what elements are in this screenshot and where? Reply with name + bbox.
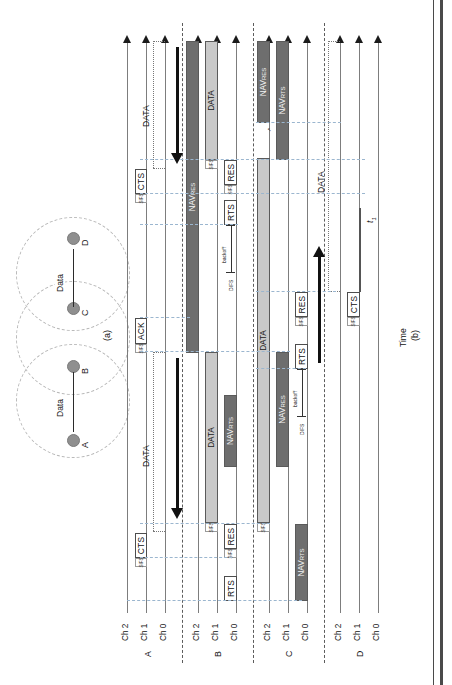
sifs-marker-b-data-2: SIFS	[205, 160, 218, 169]
transfer-arrow-head-1	[171, 508, 183, 519]
nav-label: NAV	[278, 407, 287, 423]
dotted-data-d	[328, 41, 340, 292]
figure-rotated-canvas: A B C D Data Data (a)	[30, 23, 422, 663]
guide-line-rts3	[256, 368, 306, 369]
page-edge-rule-outer	[440, 0, 443, 685]
guide-line-res3	[256, 291, 336, 292]
transfer-arrow-head-2	[171, 153, 183, 164]
channel-label-a-ch0: Ch 0	[159, 623, 168, 640]
node-dot-d	[67, 232, 80, 245]
channel-label-a-ch2: Ch 2	[121, 623, 130, 640]
guide-line-rts1	[127, 600, 302, 601]
data-bar-b-1: DATA	[205, 352, 218, 523]
dotted-data-label-a-2: DATA	[141, 105, 151, 127]
node-label-b: B	[80, 367, 90, 373]
topology-diagram: A B C D Data Data (a)	[30, 23, 116, 663]
dotted-data-label-d: DATA	[316, 171, 326, 193]
nav-label: NAV	[278, 98, 287, 114]
transfer-arrow-line-2	[176, 47, 179, 153]
axis-a-ch2	[127, 41, 128, 613]
nav-res-bar-b-ch2: NAVRES	[186, 41, 199, 353]
axis-a-ch0	[165, 41, 166, 613]
t1-marker-line	[359, 208, 361, 292]
sifs-marker-c-res: SIFS	[295, 317, 308, 326]
channel-label-d-ch1: Ch 1	[353, 623, 362, 640]
node-label-d: D	[80, 239, 90, 246]
axis-arrowhead-a-ch2	[123, 35, 131, 43]
backoff-label-b: backoff	[221, 246, 227, 262]
group-separator-b-c	[253, 23, 254, 663]
nav-sub: RTS	[299, 548, 305, 560]
axis-arrowhead-c-ch0	[303, 35, 311, 43]
nav-rts-bar-b-ch0: NAVRTS	[224, 395, 237, 467]
node-label-c: C	[80, 309, 90, 316]
backoff-label-c: backoff	[292, 390, 298, 406]
channel-label-c-ch1: Ch 1	[282, 623, 291, 640]
frame-b-rts-2: RTS	[224, 200, 237, 225]
group-separator-a-b	[182, 23, 183, 663]
difs-label-b: DIFS	[228, 279, 234, 290]
axis-d-ch2	[340, 41, 341, 613]
axis-arrowhead-d-ch1	[355, 35, 363, 43]
flow-label-data-cd: Data	[55, 273, 65, 293]
nav-label: NAV	[188, 195, 197, 211]
nav-res-bar-c-ch2: NAVRES	[257, 41, 270, 123]
sifs-marker-a-cts-1: SIFS	[135, 558, 147, 567]
node-group-label-d: D	[355, 650, 365, 656]
frame-c-rts: RTS	[295, 344, 308, 369]
axis-d-ch0	[378, 41, 379, 613]
dotted-data-label-a-1: DATA	[141, 445, 151, 467]
nav-rts-bar-c-ch1: NAVRTS	[276, 41, 289, 160]
nav-res-callout-pointer: ↗	[266, 128, 272, 132]
nav-label: NAV	[259, 80, 268, 96]
timing-diagram: A Ch 2 Ch 1 SIFS CTS SIFS ACK SIFS CTS C…	[116, 23, 422, 663]
channel-label-b-ch0: Ch 0	[230, 623, 239, 640]
transfer-arrow-line-1	[176, 358, 179, 508]
channel-label-d-ch0: Ch 0	[372, 623, 381, 640]
dotted-data-a-1	[153, 352, 165, 532]
channel-label-d-ch2: Ch 2	[334, 623, 343, 640]
node-dot-b	[67, 360, 80, 373]
guide-line-data1-end	[140, 351, 290, 352]
channel-label-a-ch1: Ch 1	[140, 623, 149, 640]
difs-tick-c-start	[297, 416, 306, 417]
guide-line-rts2	[140, 224, 238, 225]
axis-arrowhead-b-ch0	[232, 35, 240, 43]
node-group-label-a: A	[143, 651, 153, 657]
nav-sub: RES	[280, 395, 286, 407]
transfer-arrow-head-3	[313, 246, 325, 257]
axis-arrowhead-d-ch0	[374, 35, 382, 43]
flow-line-b-to-a	[73, 372, 74, 432]
t1-label: t1	[365, 217, 377, 223]
guide-line-cts2	[140, 193, 365, 194]
nav-sub: RTS	[280, 86, 286, 98]
figure-page: A B C D Data Data (a)	[0, 0, 452, 685]
frame-b-rts-1: RTS	[224, 576, 237, 601]
time-axis-label: Time	[398, 328, 408, 347]
sifs-marker-d-cts: SIFS	[347, 317, 360, 326]
channel-label-b-ch1: Ch 1	[211, 623, 220, 640]
nav-rts-bar-c-ch0: NAVRTS	[295, 524, 308, 601]
axis-d-ch1	[359, 41, 360, 613]
data-bar-c-ch2: DATA	[257, 158, 270, 523]
frame-b-res-1: RES	[224, 524, 237, 549]
frame-a-ack: ACK	[135, 318, 147, 344]
nav-sub: RES	[261, 67, 267, 79]
group-separator-c-d	[324, 23, 325, 663]
difs-label-c: DIFS	[299, 423, 305, 434]
t1-subscript: 1	[371, 217, 377, 220]
node-group-label-b: B	[213, 651, 223, 657]
nav-label: NAV	[297, 560, 306, 576]
guide-line-cts1	[140, 557, 232, 558]
flow-line-c-to-d	[73, 249, 74, 307]
node-label-a: A	[80, 441, 90, 447]
guide-line-data2	[256, 122, 341, 123]
frame-a-cts-2: CTS	[135, 169, 147, 194]
channel-label-c-ch0: Ch 0	[301, 623, 310, 640]
difs-backoff-line-c	[302, 369, 303, 417]
difs-backoff-line-b	[231, 225, 232, 273]
flow-label-data-ba: Data	[55, 398, 65, 418]
frame-c-res: RES	[295, 292, 308, 317]
node-group-label-c: C	[284, 650, 294, 656]
nav-sub: RTS	[228, 416, 234, 428]
